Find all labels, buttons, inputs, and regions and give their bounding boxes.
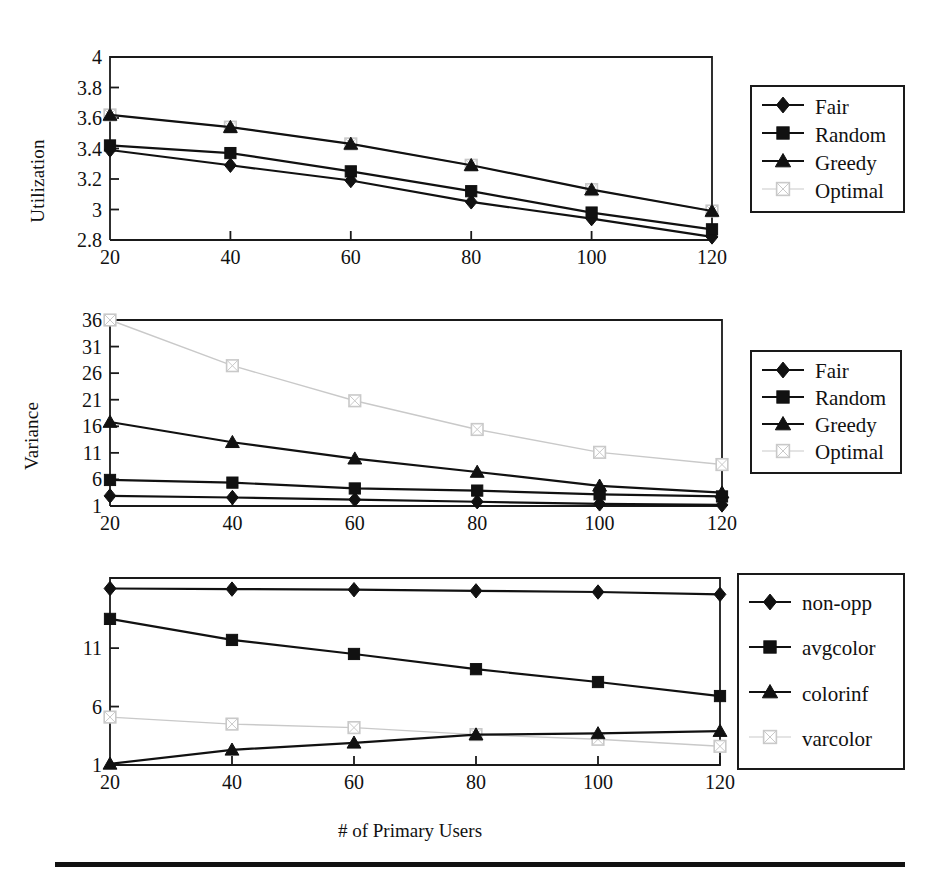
legend-item-varcolor[interactable]: varcolor bbox=[747, 728, 893, 750]
series-greedy bbox=[103, 108, 719, 216]
marker-square-icon bbox=[348, 648, 359, 659]
x-tick-label: 80 bbox=[467, 512, 487, 534]
marker-square-icon bbox=[227, 477, 238, 488]
x-tick-label: 100 bbox=[577, 246, 607, 268]
legend-item-random[interactable]: Random bbox=[760, 124, 893, 146]
y-tick-label: 4 bbox=[92, 46, 102, 68]
y-tick-label: 26 bbox=[82, 362, 102, 384]
legend-item-avgcolor[interactable]: avgcolor bbox=[747, 638, 893, 660]
legend-marker-diamond-icon bbox=[760, 96, 806, 118]
marker-square-open-icon bbox=[594, 447, 606, 459]
x-axis-ticks: 20406080100120 bbox=[100, 756, 735, 793]
marker-square-icon bbox=[104, 140, 115, 151]
legend-marker-diamond-icon bbox=[760, 361, 806, 383]
chart-utilization: 2.833.23.43.63.8420406080100120 bbox=[0, 30, 740, 285]
y-axis-title-utilization: Utilization bbox=[27, 121, 49, 241]
legend-symbol-svg bbox=[760, 96, 806, 114]
marker-diamond-icon bbox=[349, 492, 361, 506]
y-tick-label: 6 bbox=[92, 468, 102, 490]
y-tick-label: 6 bbox=[92, 696, 102, 718]
legend-marker-square-open-icon bbox=[760, 442, 806, 464]
legend-item-optimal[interactable]: Optimal bbox=[760, 442, 890, 464]
marker-square-icon bbox=[104, 613, 115, 624]
legend-utilization: FairRandomGreedyOptimal bbox=[750, 85, 905, 213]
series-fair bbox=[104, 143, 718, 244]
marker-square-open-icon bbox=[777, 444, 790, 457]
series-greedy bbox=[103, 415, 729, 498]
series-line bbox=[110, 115, 712, 211]
legend-marker-square-open-icon bbox=[760, 180, 806, 202]
marker-square-icon bbox=[225, 147, 236, 158]
marker-diamond-icon bbox=[226, 490, 238, 504]
legend-label: Fair bbox=[815, 97, 849, 118]
marker-diamond-icon bbox=[714, 587, 726, 601]
series-line bbox=[110, 320, 722, 465]
x-tick-label: 40 bbox=[222, 771, 242, 793]
marker-square-open-icon bbox=[104, 314, 116, 326]
legend-item-non-opp[interactable]: non-opp bbox=[747, 593, 893, 615]
legend-symbol-svg bbox=[747, 728, 793, 746]
legend-item-random[interactable]: Random bbox=[760, 388, 890, 410]
x-tick-label: 20 bbox=[100, 512, 120, 534]
legend-symbol-svg bbox=[747, 593, 793, 611]
y-tick-label: 2.8 bbox=[77, 229, 102, 251]
x-tick-label: 40 bbox=[220, 246, 240, 268]
legend-label: Fair bbox=[815, 361, 849, 382]
series-optimal bbox=[104, 109, 718, 217]
legend-symbol-svg bbox=[760, 442, 806, 460]
x-axis-title: # of Primary Users bbox=[260, 820, 560, 842]
chart-panel-variance: Variance 1611162126313620406080100120 bbox=[0, 300, 740, 550]
series-non-opp bbox=[104, 581, 726, 601]
y-tick-label: 11 bbox=[83, 442, 102, 464]
footer-divider-rule bbox=[55, 862, 905, 867]
marker-diamond-icon bbox=[777, 362, 790, 378]
plot-frame bbox=[110, 578, 720, 765]
legend-marker-square-icon bbox=[747, 638, 793, 660]
y-tick-label: 11 bbox=[83, 637, 102, 659]
legend-item-colorinf[interactable]: colorinf bbox=[747, 683, 893, 705]
marker-diamond-icon bbox=[777, 97, 790, 113]
marker-diamond-icon bbox=[348, 582, 360, 596]
legend-item-greedy[interactable]: Greedy bbox=[760, 152, 893, 174]
series-line bbox=[110, 150, 712, 237]
marker-square-open-icon bbox=[349, 395, 361, 407]
marker-diamond-icon bbox=[764, 594, 777, 610]
plot-border bbox=[110, 320, 722, 506]
legend-label: varcolor bbox=[802, 729, 872, 750]
legend-marker-square-open-icon bbox=[747, 728, 793, 750]
x-tick-label: 20 bbox=[100, 771, 120, 793]
legend-item-optimal[interactable]: Optimal bbox=[760, 180, 893, 202]
legend-symbol-svg bbox=[760, 152, 806, 170]
marker-square-open-icon bbox=[714, 741, 726, 753]
legend-symbol-svg bbox=[760, 388, 806, 406]
marker-square-icon bbox=[472, 485, 483, 496]
chart-panel-coloring: 161120406080100120 bbox=[0, 565, 740, 815]
legend-item-fair[interactable]: Fair bbox=[760, 96, 893, 118]
series-line bbox=[110, 145, 712, 229]
marker-diamond-icon bbox=[226, 582, 238, 596]
plot-border bbox=[110, 57, 712, 240]
marker-square-icon bbox=[586, 207, 597, 218]
chart-variance: 1611162126313620406080100120 bbox=[0, 300, 740, 550]
x-tick-label: 60 bbox=[345, 512, 365, 534]
marker-diamond-icon bbox=[224, 158, 236, 172]
x-tick-label: 100 bbox=[583, 771, 613, 793]
y-tick-label: 36 bbox=[82, 309, 102, 331]
x-tick-label: 120 bbox=[697, 246, 727, 268]
plot-border bbox=[110, 578, 720, 765]
legend-label: Random bbox=[815, 388, 886, 409]
legend-item-fair[interactable]: Fair bbox=[760, 361, 890, 383]
legend-marker-triangle-icon bbox=[760, 152, 806, 174]
marker-square-open-icon bbox=[777, 183, 790, 196]
figure-root: Utilization 2.833.23.43.63.8420406080100… bbox=[0, 0, 947, 889]
legend-variance: FairRandomGreedyOptimal bbox=[750, 350, 902, 474]
series-fair bbox=[104, 489, 728, 512]
legend-item-greedy[interactable]: Greedy bbox=[760, 415, 890, 437]
marker-square-icon bbox=[777, 127, 789, 139]
marker-square-open-icon bbox=[348, 722, 360, 734]
series-line bbox=[110, 115, 712, 211]
series-avgcolor bbox=[104, 613, 725, 701]
legend-symbol-svg bbox=[760, 361, 806, 379]
plot-frame bbox=[110, 320, 722, 506]
marker-diamond-icon bbox=[470, 584, 482, 598]
